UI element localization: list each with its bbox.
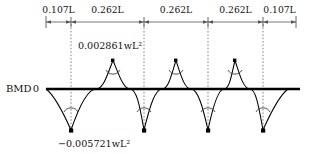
curve-segment-overhang-left	[46, 89, 71, 130]
max-marker-3	[233, 59, 236, 62]
dimension-label-4: 0.107L	[263, 4, 295, 15]
dimension-line-group: 0.107L 0.262L 0.262L 0.262L 0.107L	[42, 4, 296, 28]
curvature-arc-group	[64, 70, 270, 112]
axis-label-bmd: BMD	[6, 83, 32, 94]
dimension-label-1: 0.262L	[91, 4, 123, 15]
curve-segment-span-1	[71, 61, 144, 131]
max-value-label: 0.002861wL²	[78, 40, 142, 51]
bmd-figure: 0.107L 0.262L 0.262L 0.262L 0.107L	[0, 0, 310, 154]
bmd-diagram-canvas: 0.107L 0.262L 0.262L 0.262L 0.107L	[0, 0, 310, 154]
data-point-markers	[69, 59, 265, 133]
zero-label: 0	[33, 83, 39, 94]
curve-segment-span-2	[144, 61, 208, 131]
sagging-arc-3	[228, 70, 242, 74]
dimension-label-0: 0.107L	[42, 4, 74, 15]
curve-segment-overhang-right	[263, 89, 288, 130]
min-marker-1	[69, 128, 73, 132]
min-marker-2	[142, 128, 146, 132]
max-marker-2	[174, 59, 177, 62]
dimension-label-3: 0.262L	[219, 4, 251, 15]
bending-moment-curve	[46, 61, 288, 131]
sagging-arc-2	[169, 70, 183, 74]
min-value-label: −0.005721wL²	[58, 138, 130, 149]
min-marker-3	[206, 128, 210, 132]
min-marker-4	[261, 128, 265, 132]
dimension-label-2: 0.262L	[160, 4, 192, 15]
max-marker-1	[111, 59, 114, 62]
curve-segment-span-3	[208, 61, 263, 131]
